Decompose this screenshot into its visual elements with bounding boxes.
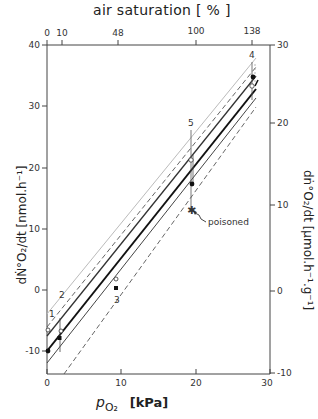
svg-text:3: 3 [114,295,120,305]
svg-text:0: 0 [34,285,40,295]
svg-text:20: 20 [190,378,202,388]
point-3: 3 [114,277,120,305]
svg-text:10: 10 [115,378,127,388]
svg-text:20: 20 [277,118,289,128]
svg-text:4: 4 [249,50,255,60]
svg-text:-10: -10 [25,346,40,356]
upper-dashed-line [47,67,256,327]
top-axis-ticks [47,40,252,45]
svg-text:10: 10 [29,224,41,234]
svg-text:10: 10 [277,200,289,210]
poisoned-annotation: poisoned [193,211,249,227]
svg-text:30: 30 [277,40,289,50]
chart-plot: 0 10 48 100 138 0 10 20 30 40 30 20 10 0… [0,0,318,419]
svg-text:30: 30 [261,378,273,388]
svg-text:0: 0 [44,378,50,388]
right-axis-tick-labels: 30 20 10 0 -10 [277,40,292,378]
left-axis-tick-labels: 40 30 20 10 0 -10 [25,40,40,356]
lower-bound-line [47,98,256,363]
svg-text:48: 48 [112,28,124,38]
plot-frame [47,45,270,374]
svg-text:138: 138 [243,26,260,36]
svg-text:5: 5 [188,118,194,128]
bottom-axis-ticks [47,369,270,374]
svg-text:100: 100 [187,26,204,36]
poisoned-marker-icon: ✱ [187,204,196,217]
svg-text:-10: -10 [277,368,292,378]
svg-text:1: 1 [49,309,55,319]
svg-text:2: 2 [59,290,65,300]
svg-text:10: 10 [56,28,68,38]
lower-dashed-line [64,107,256,374]
right-axis-ticks [270,45,275,373]
regression-lines [47,58,256,374]
svg-text:0: 0 [44,28,50,38]
upper-bound-line [47,58,256,314]
bottom-axis-tick-labels: 0 10 20 30 [44,378,273,388]
left-axis-ticks [42,45,47,351]
svg-text:poisoned: poisoned [208,217,249,227]
svg-text:30: 30 [29,101,41,111]
data-points: 1 2 3 5 ✱ poisoned [46,50,258,353]
svg-text:40: 40 [29,40,41,50]
svg-text:20: 20 [29,163,41,173]
svg-text:0: 0 [277,286,283,296]
regression-solid-line [47,76,256,336]
top-axis-tick-labels: 0 10 48 100 138 [44,26,261,38]
